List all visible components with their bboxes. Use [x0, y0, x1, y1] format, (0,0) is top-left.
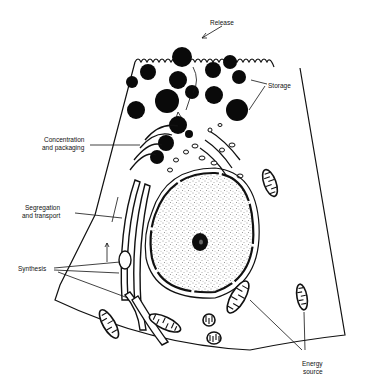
granule [127, 101, 145, 119]
label-storage: Storage [268, 82, 291, 90]
label-concentration-line1: Concentration [44, 136, 85, 143]
granule [185, 130, 193, 138]
granule-releasing [172, 47, 192, 67]
mitochondrion [295, 283, 309, 310]
granule [126, 76, 138, 88]
mitochondrion [260, 168, 281, 198]
mitochondrion [96, 307, 122, 341]
label-energy-line2: source [303, 368, 323, 375]
label-segregation-line1: Segregation [25, 204, 60, 212]
granule [169, 71, 187, 89]
label-energy-line1: Energy [302, 360, 323, 368]
granule [205, 86, 223, 104]
microvilli [135, 59, 274, 67]
granule [158, 135, 174, 151]
label-concentration-line2: and packaging [42, 144, 85, 152]
granule [150, 150, 164, 164]
granule [223, 55, 237, 69]
mitochondrion [203, 314, 215, 326]
nucleus [145, 168, 259, 298]
secretory-cell-diagram: Release Storage Concentration and packag… [0, 0, 369, 390]
granule [155, 89, 179, 113]
granule [140, 64, 156, 80]
label-release: Release [210, 19, 234, 26]
granule [232, 70, 246, 84]
granule [226, 99, 248, 121]
granule [185, 85, 199, 99]
label-segregation-line2: and transport [22, 212, 60, 220]
label-synthesis: Synthesis [18, 265, 47, 273]
mitochondrion [207, 332, 221, 344]
granule [205, 62, 221, 78]
